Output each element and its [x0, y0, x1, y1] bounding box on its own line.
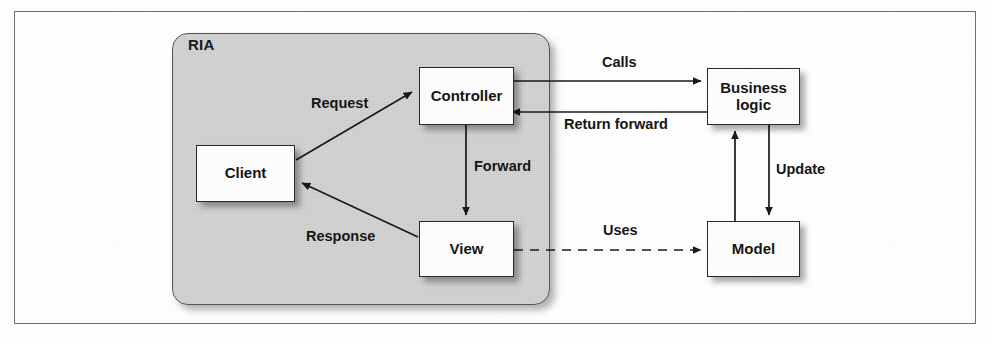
node-business-logic-label: Business logic — [720, 80, 787, 114]
edge-label-return-forward: Return forward — [564, 116, 668, 132]
edge-label-calls: Calls — [602, 54, 637, 70]
node-model-label: Model — [732, 241, 775, 258]
edge-label-request: Request — [311, 95, 368, 111]
node-business-logic[interactable]: Business logic — [707, 68, 800, 125]
edge-label-uses: Uses — [603, 222, 638, 238]
node-client[interactable]: Client — [196, 145, 295, 202]
edge-label-forward: Forward — [474, 158, 531, 174]
edge-label-update: Update — [776, 161, 825, 177]
node-controller-label: Controller — [431, 88, 503, 105]
edge-label-response: Response — [306, 228, 375, 244]
node-model[interactable]: Model — [707, 221, 800, 277]
node-view[interactable]: View — [419, 221, 514, 277]
node-client-label: Client — [225, 165, 267, 182]
node-view-label: View — [450, 241, 484, 258]
node-controller[interactable]: Controller — [419, 67, 514, 125]
figure-canvas: RIA — [0, 0, 991, 342]
